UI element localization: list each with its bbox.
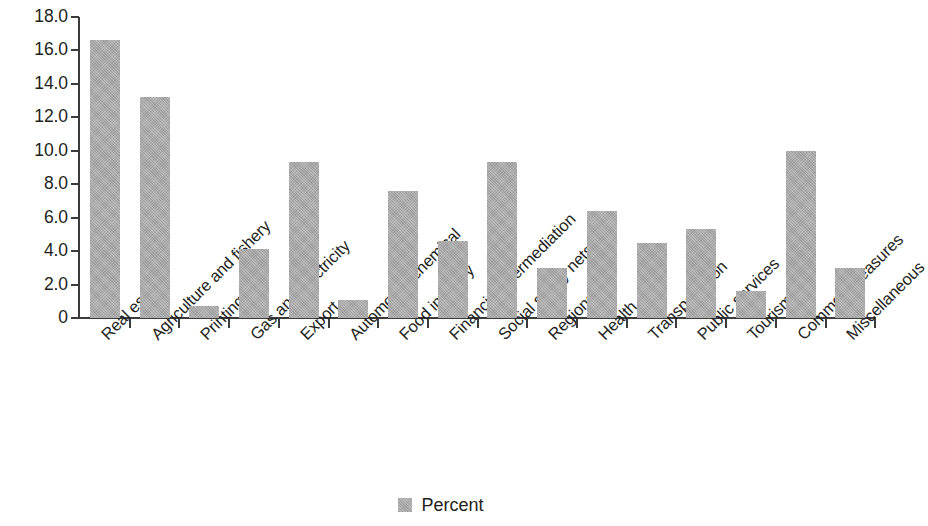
- y-axis-tick-label: 18.0: [4, 8, 68, 26]
- y-axis-tick-label: 0: [4, 309, 68, 327]
- x-axis-tick: [377, 319, 379, 328]
- x-axis-tick: [328, 319, 330, 328]
- bar: [338, 300, 368, 318]
- y-axis-tick: [71, 183, 79, 185]
- y-axis-tick-label: 6.0: [4, 209, 68, 227]
- y-axis-tick: [71, 16, 79, 18]
- bar: [388, 191, 418, 318]
- x-axis-tick: [725, 319, 727, 328]
- bar: [786, 151, 816, 318]
- x-axis-tick: [626, 319, 628, 328]
- x-axis-tick: [526, 319, 528, 328]
- y-axis-tick: [71, 317, 79, 319]
- legend-label-percent: Percent: [421, 496, 483, 514]
- y-axis-tick: [71, 49, 79, 51]
- x-axis-tick: [129, 319, 131, 328]
- bar: [239, 249, 269, 318]
- y-axis-tick-labels: 18.016.014.012.010.08.06.04.02.00: [0, 0, 68, 526]
- y-axis-tick-label: 16.0: [4, 41, 68, 59]
- x-axis-tick: [228, 319, 230, 328]
- bar: [537, 268, 567, 318]
- y-axis-tick-label: 4.0: [4, 242, 68, 260]
- bar: [90, 40, 120, 318]
- bar: [289, 162, 319, 318]
- y-axis-tick: [71, 284, 79, 286]
- bar: [487, 162, 517, 318]
- x-axis-tick: [427, 319, 429, 328]
- x-axis-tick: [675, 319, 677, 328]
- y-axis-line: [78, 17, 80, 319]
- x-axis-tick: [477, 319, 479, 328]
- bar: [835, 268, 865, 318]
- x-axis-tick: [576, 319, 578, 328]
- y-axis-tick-label: 8.0: [4, 175, 68, 193]
- legend-swatch-percent: [398, 498, 412, 512]
- y-axis-tick-label: 14.0: [4, 75, 68, 93]
- bar: [736, 291, 766, 318]
- y-axis-tick-label: 2.0: [4, 276, 68, 294]
- y-axis-tick: [71, 83, 79, 85]
- bar: [140, 97, 170, 318]
- y-axis-tick: [71, 217, 79, 219]
- bar: [438, 241, 468, 318]
- y-axis-tick-label: 10.0: [4, 142, 68, 160]
- x-axis-tick: [775, 319, 777, 328]
- y-axis-tick-label: 12.0: [4, 108, 68, 126]
- bar: [686, 229, 716, 318]
- y-axis-tick: [71, 150, 79, 152]
- chart-legend: Percent: [0, 496, 882, 514]
- y-axis-tick: [71, 250, 79, 252]
- bar: [587, 211, 617, 318]
- bar: [637, 243, 667, 318]
- y-axis-tick: [71, 116, 79, 118]
- x-axis-tick: [874, 319, 876, 328]
- x-axis-tick: [178, 319, 180, 328]
- x-axis-tick: [825, 319, 827, 328]
- bar: [189, 306, 219, 318]
- x-axis-tick: [278, 319, 280, 328]
